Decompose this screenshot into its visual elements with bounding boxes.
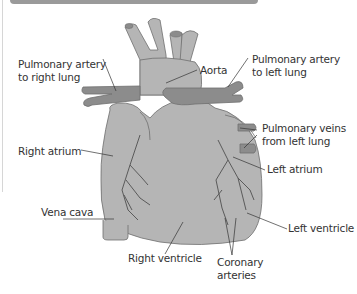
label-line-1: Pulmonary artery [18, 58, 106, 71]
pulmonary-artery-right [82, 86, 140, 107]
label-left-atrium: Left atrium [267, 163, 323, 176]
label-line-2: from left lung [262, 135, 346, 148]
label-pulmonary-artery-left: Pulmonary artery to left lung [252, 53, 340, 79]
label-coronary-arteries: Coronary arteries [217, 256, 263, 282]
label-vena-cava: Vena cava [41, 206, 93, 219]
label-pulmonary-artery-right: Pulmonary artery to right lung [18, 58, 106, 84]
label-line-2: to right lung [18, 71, 106, 84]
label-pulmonary-veins: Pulmonary veins from left lung [262, 122, 346, 148]
label-line-1: Coronary [217, 256, 263, 269]
label-line-1: Pulmonary artery [252, 53, 340, 66]
label-line-1: Pulmonary veins [262, 122, 346, 135]
label-aorta: Aorta [200, 64, 227, 77]
heart-body [101, 99, 262, 245]
label-left-ventricle: Left ventricle [288, 222, 354, 235]
label-line-2: arteries [217, 269, 263, 282]
label-right-atrium: Right atrium [18, 145, 81, 158]
label-line-2: to left lung [252, 66, 340, 79]
aortic-arch-branches [125, 18, 202, 95]
label-right-ventricle: Right ventricle [128, 252, 202, 265]
